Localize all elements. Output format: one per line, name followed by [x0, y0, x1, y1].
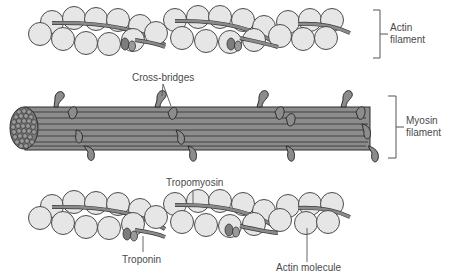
- cross-bridges-label: Cross-bridges: [132, 72, 194, 84]
- actin-molecule-label: Actin molecule: [276, 262, 341, 274]
- actin-filament-bracket: [373, 10, 388, 58]
- myosin-filament-label-line2: filament: [406, 127, 441, 139]
- myosin-filament-label-line1: Myosin: [406, 115, 441, 127]
- myosin-cross-section: [10, 107, 38, 149]
- actin-filament-label-line1: Actin: [390, 22, 425, 34]
- myosin-filament: [10, 84, 404, 162]
- actin-filament-label-line2: filament: [390, 34, 425, 46]
- actin-filament-detail: [29, 190, 351, 263]
- diagram-canvas: [0, 0, 453, 278]
- myosin-filament-bracket: [388, 96, 404, 158]
- troponin-label: Troponin: [122, 254, 161, 266]
- actin-filament-label: Actin filament: [390, 22, 425, 46]
- myosin-filament-label: Myosin filament: [406, 115, 441, 139]
- actin-filament-top: [29, 6, 389, 59]
- tropomyosin-label: Tropomyosin: [166, 177, 223, 189]
- muscle-filament-diagram: Actin filament Cross-bridges Myosin fila…: [0, 0, 453, 278]
